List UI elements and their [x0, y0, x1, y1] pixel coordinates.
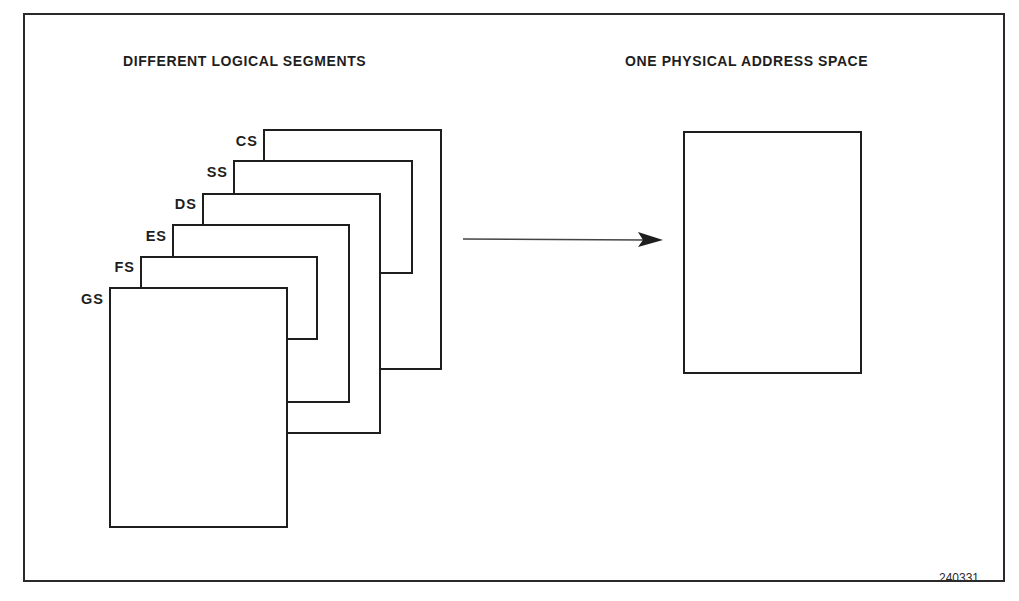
figure-number: 240331 [939, 571, 979, 585]
arrow-right-icon [0, 0, 1019, 601]
physical-address-space [683, 131, 862, 374]
